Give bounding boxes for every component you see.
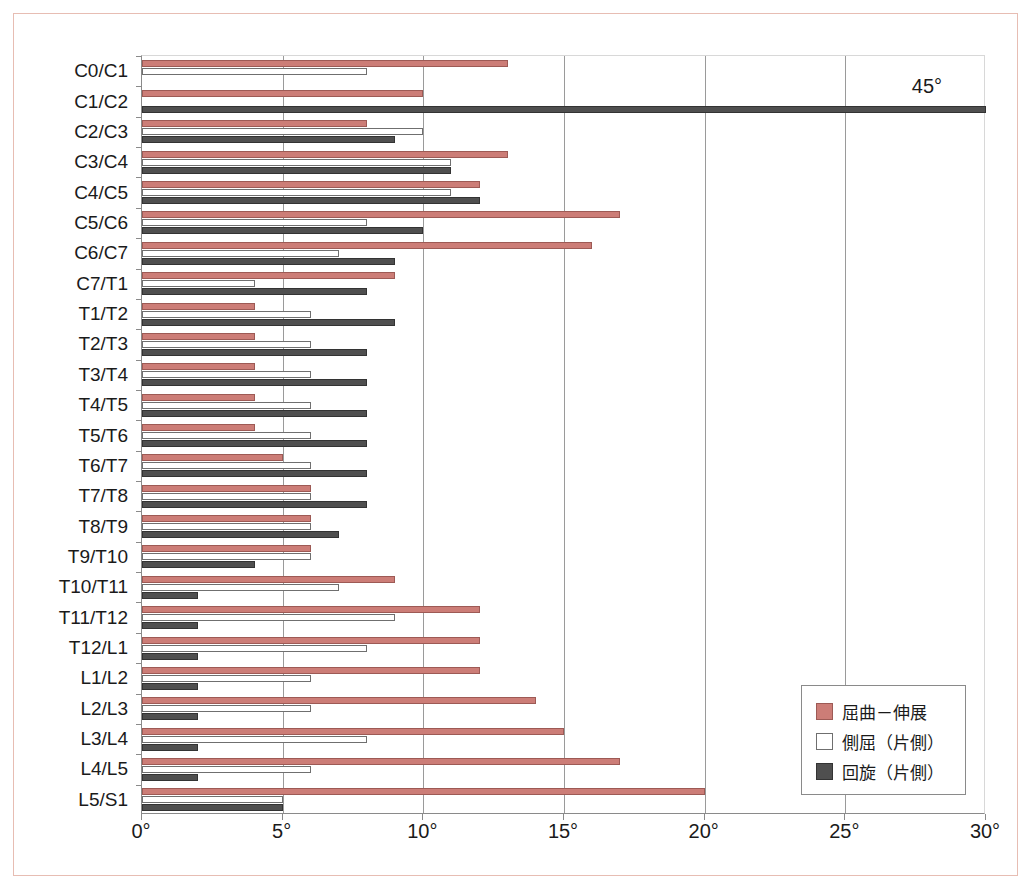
y-axis-label-c1-c2: C1/C2	[74, 91, 128, 110]
bar-c2-c3-lat	[142, 128, 423, 135]
y-tick-mark-9	[136, 329, 142, 330]
y-tick-mark-17	[136, 572, 142, 573]
x-tick-label-20: 20°	[689, 820, 719, 843]
y-axis-label-t5-t6: T5/T6	[78, 425, 128, 444]
y-axis-label-c7-t1: C7/T1	[76, 273, 128, 292]
bar-t11-t12-rot	[142, 622, 198, 629]
y-axis-label-c3-c4: C3/C4	[74, 152, 128, 171]
y-axis-label-l2-l3: L2/L3	[80, 698, 128, 717]
bar-l2-l3-lat	[142, 705, 311, 712]
bar-t10-t11-rot	[142, 592, 198, 599]
bar-l5-s1-flex	[142, 788, 705, 795]
y-tick-mark-2	[136, 117, 142, 118]
y-tick-mark-4	[136, 177, 142, 178]
bar-c1-c2-flex	[142, 90, 423, 97]
legend-label-lateral-bending: 側屈（片側）	[842, 729, 944, 754]
y-tick-mark-11	[136, 390, 142, 391]
y-axis-label-t9-t10: T9/T10	[68, 546, 128, 565]
y-tick-mark-3	[136, 147, 142, 148]
y-axis-label-t8-t9: T8/T9	[78, 516, 128, 535]
bar-t4-t5-lat	[142, 402, 311, 409]
y-tick-mark-21	[136, 694, 142, 695]
legend-item-flexion-extension: 屈曲－伸展	[816, 696, 965, 726]
chart-legend: 屈曲－伸展 側屈（片側） 回旋（片側）	[801, 685, 966, 795]
y-tick-mark-24	[136, 785, 142, 786]
bar-c3-c4-lat	[142, 159, 451, 166]
y-axis-label-l3-l4: L3/L4	[80, 729, 128, 748]
y-tick-mark-18	[136, 602, 142, 603]
bar-t2-t3-lat	[142, 341, 311, 348]
y-tick-mark-15	[136, 511, 142, 512]
bar-t2-t3-flex	[142, 333, 255, 340]
bar-t11-t12-flex	[142, 606, 480, 613]
bar-t10-t11-lat	[142, 584, 339, 591]
bar-c0-c1-lat	[142, 68, 367, 75]
bar-c4-c5-lat	[142, 189, 451, 196]
bar-c5-c6-lat	[142, 219, 367, 226]
legend-swatch-lateral-bending	[816, 733, 833, 750]
y-axis-label-t4-t5: T4/T5	[78, 395, 128, 414]
legend-label-flexion-extension: 屈曲－伸展	[842, 699, 927, 724]
y-axis-label-t3-t4: T3/T4	[78, 364, 128, 383]
bar-l5-s1-lat	[142, 796, 283, 803]
bar-t5-t6-rot	[142, 440, 367, 447]
bar-c5-c6-rot	[142, 227, 423, 234]
bar-t8-t9-lat	[142, 523, 311, 530]
y-axis-label-t2-t3: T2/T3	[78, 334, 128, 353]
bar-l4-l5-flex	[142, 758, 620, 765]
y-axis-category-labels: C0/C1C1/C2C2/C3C3/C4C4/C5C5/C6C6/C7C7/T1…	[14, 55, 136, 814]
y-tick-mark-1	[136, 86, 142, 87]
y-tick-mark-8	[136, 299, 142, 300]
bar-l1-l2-flex	[142, 667, 480, 674]
bar-l4-l5-lat	[142, 766, 311, 773]
bar-t1-t2-rot	[142, 319, 395, 326]
bar-t3-t4-lat	[142, 371, 311, 378]
bar-l1-l2-rot	[142, 683, 198, 690]
y-axis-label-l5-s1: L5/S1	[78, 789, 128, 808]
y-axis-label-c2-c3: C2/C3	[74, 121, 128, 140]
y-tick-mark-5	[136, 208, 142, 209]
y-tick-mark-13	[136, 451, 142, 452]
bar-t6-t7-lat	[142, 462, 311, 469]
y-tick-mark-19	[136, 633, 142, 634]
bar-t3-t4-rot	[142, 379, 367, 386]
bar-t9-t10-lat	[142, 553, 311, 560]
bar-l1-l2-lat	[142, 675, 311, 682]
bar-l2-l3-rot	[142, 713, 198, 720]
legend-label-rotation: 回旋（片側）	[842, 759, 944, 784]
bar-c1-c2-rot	[142, 106, 986, 113]
bar-c2-c3-rot	[142, 136, 395, 143]
bar-t9-t10-flex	[142, 545, 311, 552]
y-axis-label-t1-t2: T1/T2	[78, 304, 128, 323]
bar-c6-c7-rot	[142, 258, 395, 265]
bar-t2-t3-rot	[142, 349, 367, 356]
y-tick-mark-22	[136, 724, 142, 725]
x-axis-tick-labels: 0°5°10°15°20°25°30°	[141, 820, 987, 860]
bar-l3-l4-flex	[142, 728, 564, 735]
bar-t5-t6-lat	[142, 432, 311, 439]
y-tick-mark-10	[136, 360, 142, 361]
bar-c7-t1-lat	[142, 280, 255, 287]
y-tick-mark-7	[136, 269, 142, 270]
y-axis-label-t10-t11: T10/T11	[59, 577, 128, 596]
bar-t4-t5-flex	[142, 394, 255, 401]
bar-l4-l5-rot	[142, 774, 198, 781]
legend-item-rotation: 回旋（片側）	[816, 756, 965, 786]
image-frame: C0/C1C1/C2C2/C3C3/C4C4/C5C5/C6C6/C7C7/T1…	[13, 13, 1018, 876]
bar-t10-t11-flex	[142, 576, 395, 583]
y-axis-label-c5-c6: C5/C6	[74, 212, 128, 231]
bar-t12-l1-lat	[142, 645, 367, 652]
chart-area: C0/C1C1/C2C2/C3C3/C4C4/C5C5/C6C6/C7C7/T1…	[14, 14, 1019, 877]
x-tick-label-30: 30°	[970, 820, 1000, 843]
bar-c7-t1-rot	[142, 288, 367, 295]
bar-t11-t12-lat	[142, 614, 395, 621]
y-tick-mark-6	[136, 238, 142, 239]
bar-c4-c5-flex	[142, 181, 480, 188]
bar-t3-t4-flex	[142, 363, 255, 370]
bar-c5-c6-flex	[142, 211, 620, 218]
legend-swatch-rotation	[816, 763, 833, 780]
bar-t4-t5-rot	[142, 410, 367, 417]
y-tick-mark-14	[136, 481, 142, 482]
y-tick-mark-16	[136, 542, 142, 543]
y-tick-mark-12	[136, 420, 142, 421]
